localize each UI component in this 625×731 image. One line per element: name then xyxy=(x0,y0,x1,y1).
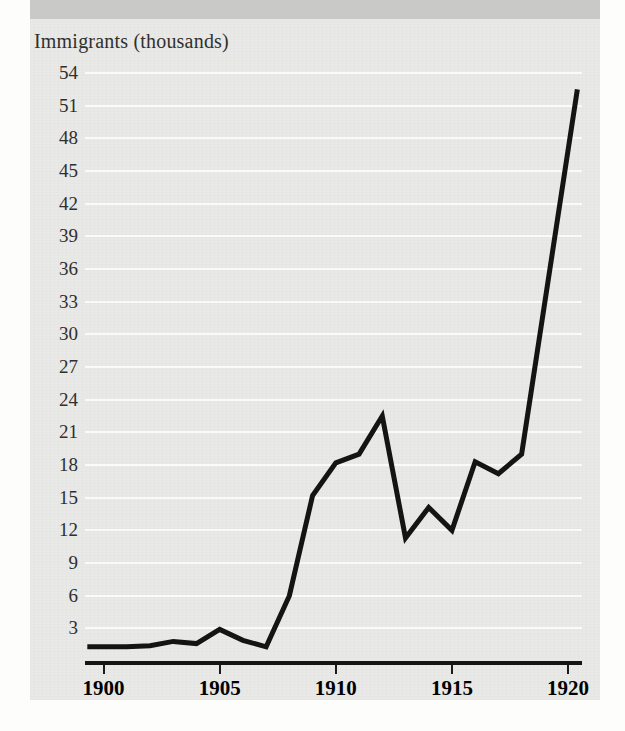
plot-area: 369121518212427303336394245485154 190019… xyxy=(0,0,625,731)
chart-page: Immigrants (thousands) 36912151821242730… xyxy=(0,0,625,731)
data-series-line xyxy=(0,0,625,731)
series-polyline xyxy=(87,89,577,647)
